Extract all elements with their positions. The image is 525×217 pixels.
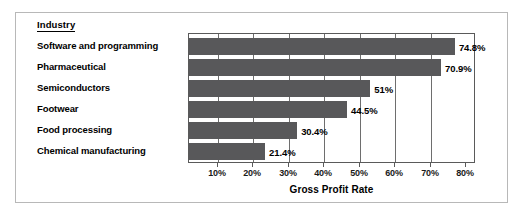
bar-value-label: 51% bbox=[370, 83, 393, 94]
x-tick-label: 20% bbox=[243, 168, 260, 178]
tick-mark bbox=[465, 163, 466, 167]
x-axis-title: Gross Profit Rate bbox=[188, 184, 475, 195]
x-tick-label: 70% bbox=[421, 168, 438, 178]
category-label-column: Industry Software and programming Pharma… bbox=[37, 19, 189, 169]
x-tick-label: 30% bbox=[279, 168, 296, 178]
bar-row: 74.8% bbox=[189, 38, 456, 55]
category-label: Software and programming bbox=[37, 40, 189, 51]
chart-frame: Industry Software and programming Pharma… bbox=[15, 12, 508, 203]
bar[interactable] bbox=[189, 59, 441, 76]
bar[interactable] bbox=[189, 122, 297, 139]
bar[interactable] bbox=[189, 80, 370, 97]
x-tick-label: 60% bbox=[385, 168, 402, 178]
bar-value-label: 44.5% bbox=[347, 104, 377, 115]
x-tick-label: 80% bbox=[456, 168, 473, 178]
category-label: Pharmaceutical bbox=[37, 61, 189, 72]
bar[interactable] bbox=[189, 38, 455, 55]
tick-mark bbox=[359, 163, 360, 167]
bar-row: 21.4% bbox=[189, 143, 456, 160]
tick-mark bbox=[430, 163, 431, 167]
tick-mark bbox=[288, 163, 289, 167]
tick-mark bbox=[252, 163, 253, 167]
bar-value-label: 30.4% bbox=[297, 125, 327, 136]
bar-row: 51% bbox=[189, 80, 456, 97]
bar-value-label: 74.8% bbox=[455, 41, 485, 52]
tick-mark bbox=[323, 163, 324, 167]
x-tick-label: 10% bbox=[208, 168, 225, 178]
bar[interactable] bbox=[189, 143, 265, 160]
x-tick-label: 50% bbox=[350, 168, 367, 178]
bar-value-label: 21.4% bbox=[265, 146, 295, 157]
category-label: Chemical manufacturing bbox=[37, 145, 189, 156]
plot-area: 74.8% 70.9% 51% 44.5% 30.4% 21.4% bbox=[188, 33, 475, 163]
axis-title-industry: Industry bbox=[37, 19, 75, 32]
x-tick-label: 40% bbox=[314, 168, 331, 178]
tick-mark bbox=[394, 163, 395, 167]
tick-mark bbox=[217, 163, 218, 167]
category-label: Food processing bbox=[37, 124, 189, 135]
category-label: Semiconductors bbox=[37, 82, 189, 93]
bar-row: 70.9% bbox=[189, 59, 456, 76]
bar-value-label: 70.9% bbox=[441, 62, 471, 73]
bar[interactable] bbox=[189, 101, 347, 118]
bar-row: 30.4% bbox=[189, 122, 456, 139]
bar-row: 44.5% bbox=[189, 101, 456, 118]
category-label: Footwear bbox=[37, 103, 189, 114]
